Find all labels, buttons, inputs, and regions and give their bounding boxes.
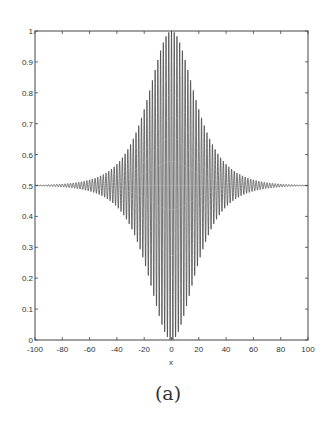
x-tick-label: -100 — [27, 345, 44, 354]
x-tick-label: 100 — [301, 345, 315, 354]
x-tick-label: 0 — [169, 345, 174, 354]
x-tick-label: 80 — [276, 345, 285, 354]
y-tick-label: 0.5 — [22, 182, 34, 191]
x-tick-label: 20 — [194, 345, 203, 354]
x-tick-labels: -100-80-60-40-20020406080100 — [27, 345, 315, 354]
x-tick-label: 60 — [249, 345, 258, 354]
figure-caption: (a) — [0, 382, 336, 404]
y-tick-label: 0 — [29, 336, 34, 345]
x-axis-label: x — [169, 358, 173, 367]
y-tick-label: 0.1 — [22, 305, 34, 314]
chart: -100-80-60-40-20020406080100 00.10.20.30… — [0, 0, 336, 424]
y-tick-labels: 00.10.20.30.40.50.60.70.80.91 — [22, 27, 34, 345]
y-tick-label: 0.2 — [22, 274, 34, 283]
y-tick-label: 0.4 — [22, 212, 34, 221]
signal-line — [35, 31, 308, 340]
y-tick-label: 0.3 — [22, 243, 34, 252]
x-tick-label: -80 — [57, 345, 69, 354]
y-tick-label: 0.8 — [22, 89, 34, 98]
x-tick-label: -20 — [138, 345, 150, 354]
x-tick-label: 40 — [222, 345, 231, 354]
y-tick-label: 0.6 — [22, 151, 34, 160]
y-tick-label: 0.7 — [22, 120, 34, 129]
y-tick-label: 0.9 — [22, 58, 34, 67]
signal-path — [35, 31, 308, 340]
x-tick-label: -60 — [84, 345, 96, 354]
x-tick-label: -40 — [111, 345, 123, 354]
y-tick-label: 1 — [29, 27, 34, 36]
